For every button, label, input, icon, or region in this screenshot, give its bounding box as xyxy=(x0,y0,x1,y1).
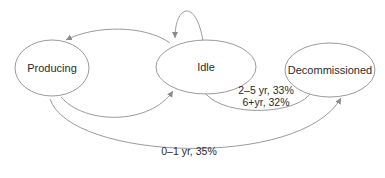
node-decommissioned[interactable]: Decommissioned xyxy=(285,43,375,97)
edge-idle-self-loop xyxy=(175,11,203,41)
edge-label-idle-decommissioned-line1: 2–5 yr, 33% xyxy=(238,84,293,96)
node-label-producing: Producing xyxy=(27,62,77,74)
node-producing[interactable]: Producing xyxy=(15,40,89,96)
node-label-decommissioned: Decommissioned xyxy=(288,64,372,76)
edge-labels: 2–5 yr, 33% 6+yr, 32% 0–1 yr, 35% xyxy=(161,84,293,157)
edge-producing-to-idle xyxy=(61,91,173,117)
edge-label-producing-decommissioned: 0–1 yr, 35% xyxy=(161,145,216,157)
node-label-idle: Idle xyxy=(197,61,215,73)
edge-label-idle-decommissioned-line2: 6+yr, 32% xyxy=(243,96,290,108)
edge-producing-to-decommissioned xyxy=(50,98,341,148)
state-diagram: Producing Idle Decommissioned 2–5 yr, 33… xyxy=(0,0,385,178)
edge-idle-to-producing xyxy=(66,29,170,43)
